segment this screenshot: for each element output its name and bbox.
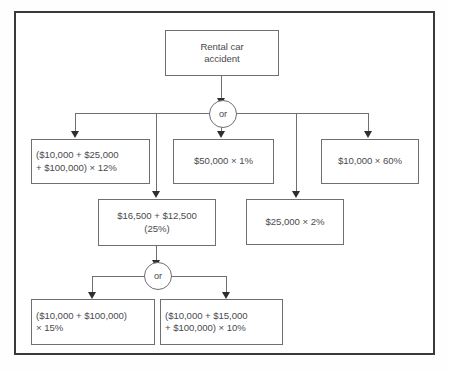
diagram-canvas: Rental car accident or ($10,000 + $25,00… [0, 0, 449, 370]
arrowhead-gate1-branch-16500 [152, 191, 160, 198]
arrowhead-gate2-branch-left [88, 292, 96, 299]
node-rental-car-accident-label: Rental car accident [166, 41, 278, 66]
connector-gate1-branch-right [368, 113, 369, 133]
node-16500-12500-label: $16,500 + $12,500 (25%) [99, 210, 215, 235]
node-right-10000-60pct: $10,000 × 60% [321, 139, 419, 184]
connector-gate1-branch-25000 [296, 113, 297, 193]
gate-2-or: or [144, 262, 172, 290]
arrowhead-gate1-branch-mid [217, 131, 225, 138]
node-mid-50000-1pct-label: $50,000 × 1% [174, 155, 273, 168]
arrowhead-gate2-branch-right [222, 292, 230, 299]
node-bottom-left-15pct: ($10,000 + $100,000) × 15% [31, 299, 155, 345]
node-mid-50000-1pct: $50,000 × 1% [173, 139, 274, 184]
node-bottom-right-10pct-label: ($10,000 + $15,000 + $100,000) × 10% [165, 310, 282, 335]
arrowhead-gate1-branch-right [364, 131, 372, 138]
node-left-12pct-label: ($10,000 + $25,000 + $100,000) × 12% [36, 149, 149, 174]
node-bottom-right-10pct: ($10,000 + $15,000 + $100,000) × 10% [160, 299, 283, 345]
node-16500-12500: $16,500 + $12,500 (25%) [98, 199, 216, 246]
node-rental-car-accident: Rental car accident [165, 30, 279, 76]
gate-1-or: or [209, 100, 237, 128]
node-right-10000-60pct-label: $10,000 × 60% [322, 155, 418, 168]
node-left-12pct: ($10,000 + $25,000 + $100,000) × 12% [31, 139, 150, 184]
node-bottom-left-15pct-label: ($10,000 + $100,000) × 15% [36, 310, 154, 335]
diagram-frame: Rental car accident or ($10,000 + $25,00… [14, 11, 435, 355]
connector-gate1-branch-16500 [156, 113, 157, 193]
gate-1-or-label: or [219, 109, 227, 119]
node-25000-2pct-label: $25,000 × 2% [247, 216, 343, 229]
connector-gate1-branch-left [75, 113, 76, 133]
node-25000-2pct: $25,000 × 2% [246, 199, 344, 245]
gate-2-or-label: or [154, 271, 162, 281]
arrowhead-gate1-branch-25000 [292, 191, 300, 198]
arrowhead-gate1-branch-left [71, 131, 79, 138]
